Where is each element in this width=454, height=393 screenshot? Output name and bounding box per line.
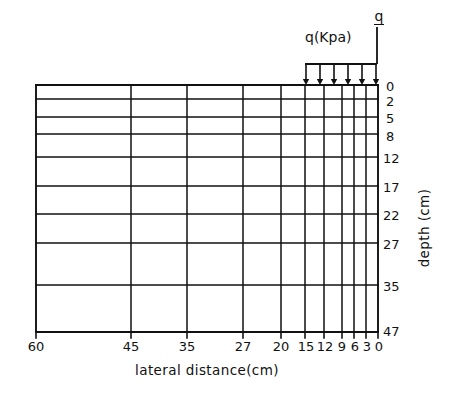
x-axis-title: lateral distance(cm) [135, 362, 279, 378]
y-tick-label-2: 2 [386, 95, 394, 108]
q-glyph: q [374, 9, 384, 25]
y-tick-label-12: 12 [383, 152, 400, 165]
y-tick-label-22: 22 [383, 209, 400, 222]
y-tick-label-0: 0 [386, 80, 394, 93]
load-magnitude-label: q(Kpa) [305, 29, 351, 45]
y-axis-title: depth (cm) [416, 189, 432, 268]
x-tick-label-60: 60 [28, 340, 45, 353]
x-tick-label-6: 6 [351, 340, 359, 353]
y-tick-label-47: 47 [383, 325, 400, 338]
y-tick-label-5: 5 [386, 112, 394, 125]
x-tick-label-20: 20 [273, 340, 290, 353]
x-tick-label-9: 9 [338, 340, 346, 353]
y-tick-label-35: 35 [383, 280, 400, 293]
y-tick-label-27: 27 [383, 238, 400, 251]
x-tick-label-27: 27 [235, 340, 252, 353]
y-tick-label-17: 17 [383, 181, 400, 194]
y-tick-label-8: 8 [386, 130, 394, 143]
mesh-diagram: 60 45 35 27 20 15 12 9 6 3 0 0 2 5 8 12 … [0, 0, 454, 393]
x-tick-label-45: 45 [123, 340, 140, 353]
x-tick-label-3: 3 [363, 340, 371, 353]
load-centerline-symbol: q [374, 8, 384, 25]
x-tick-label-35: 35 [179, 340, 196, 353]
x-tick-label-15: 15 [298, 340, 315, 353]
x-tick-label-0: 0 [375, 340, 383, 353]
x-tick-label-12: 12 [317, 340, 334, 353]
